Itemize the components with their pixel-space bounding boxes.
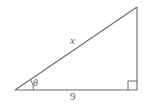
right-angle-marker-icon xyxy=(128,81,137,90)
angle-theta-label: θ xyxy=(33,78,38,88)
triangle-figure: x θ 9 xyxy=(0,0,148,105)
base-length-label: 9 xyxy=(70,91,76,102)
hypotenuse-label: x xyxy=(70,35,75,46)
